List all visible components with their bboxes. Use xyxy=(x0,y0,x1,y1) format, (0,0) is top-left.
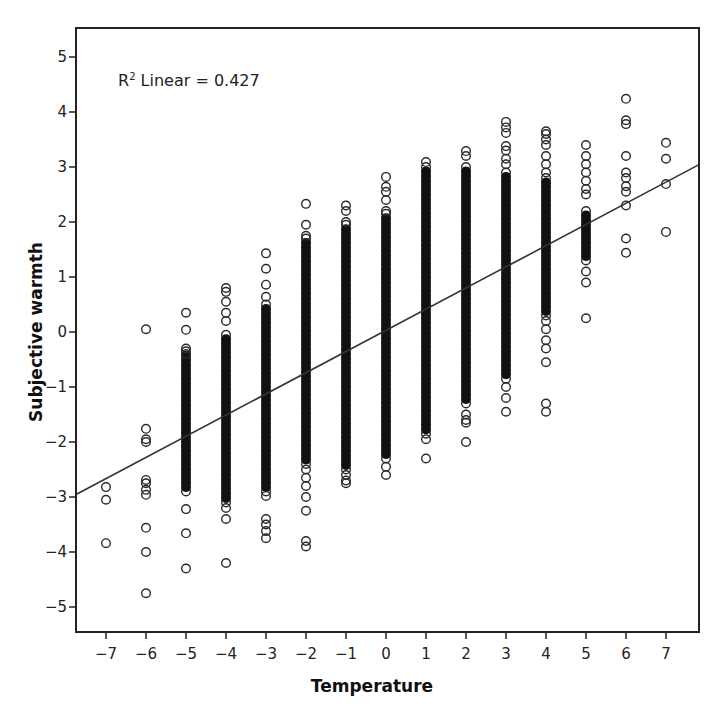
x-tick-label: −7 xyxy=(95,645,117,663)
dense-point-cluster xyxy=(182,351,191,491)
x-tick-label: −6 xyxy=(135,645,157,663)
dense-point-cluster xyxy=(462,167,471,404)
y-tick-label: 0 xyxy=(57,323,67,341)
x-axis: −7−6−5−4−3−2−101234567 xyxy=(95,632,671,663)
y-tick-label: 4 xyxy=(57,103,67,121)
scatter-plot: −7−6−5−4−3−2−101234567 543210−1−2−3−4−5 … xyxy=(0,0,725,721)
dense-point-cluster xyxy=(262,305,271,492)
dense-point-cluster xyxy=(222,335,231,503)
r-squared-annotation: R2 Linear = 0.427 xyxy=(118,71,260,90)
y-tick-label: −4 xyxy=(45,543,67,561)
dense-point-cluster xyxy=(502,173,511,379)
r-label: R xyxy=(118,71,129,90)
x-tick-label: −3 xyxy=(255,645,277,663)
dense-point-cluster xyxy=(422,167,431,434)
x-tick-label: 6 xyxy=(621,645,631,663)
y-tick-label: 5 xyxy=(57,48,67,66)
x-tick-label: 0 xyxy=(381,645,391,663)
dense-point-cluster xyxy=(342,225,351,470)
x-tick-label: −1 xyxy=(335,645,357,663)
dense-point-cluster xyxy=(302,239,311,465)
x-axis-title: Temperature xyxy=(311,676,433,696)
y-axis: 543210−1−2−3−4−5 xyxy=(45,48,76,616)
dense-point-cluster xyxy=(382,214,391,459)
y-tick-label: 3 xyxy=(57,158,67,176)
x-tick-label: 7 xyxy=(661,645,671,663)
x-tick-label: 3 xyxy=(501,645,511,663)
x-tick-label: −4 xyxy=(215,645,237,663)
x-tick-label: −5 xyxy=(175,645,197,663)
y-tick-label: −3 xyxy=(45,488,67,506)
x-tick-label: 2 xyxy=(461,645,471,663)
x-tick-label: 4 xyxy=(541,645,551,663)
y-axis-title: Subjective warmth xyxy=(26,242,46,422)
y-tick-label: 2 xyxy=(57,213,67,231)
x-tick-label: 5 xyxy=(581,645,591,663)
y-tick-label: −5 xyxy=(45,598,67,616)
x-tick-label: 1 xyxy=(421,645,431,663)
y-tick-label: −1 xyxy=(45,378,67,396)
y-tick-label: 1 xyxy=(57,268,67,286)
r-squared-text: Linear = 0.427 xyxy=(136,71,260,90)
x-tick-label: −2 xyxy=(295,645,317,663)
y-tick-label: −2 xyxy=(45,433,67,451)
dense-point-cluster xyxy=(582,211,591,261)
